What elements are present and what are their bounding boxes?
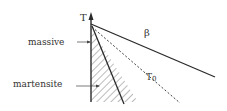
axis-label-t: T (80, 12, 87, 23)
axis-arrowhead-icon (89, 12, 94, 20)
label-beta: β (144, 27, 150, 38)
phase-diagram: T massive martensite β T0 (0, 0, 227, 111)
label-martensite: martensite (13, 79, 62, 89)
label-massive: massive (28, 37, 64, 47)
label-t0: T0 (146, 72, 156, 83)
label-t0-subscript: 0 (152, 75, 156, 83)
